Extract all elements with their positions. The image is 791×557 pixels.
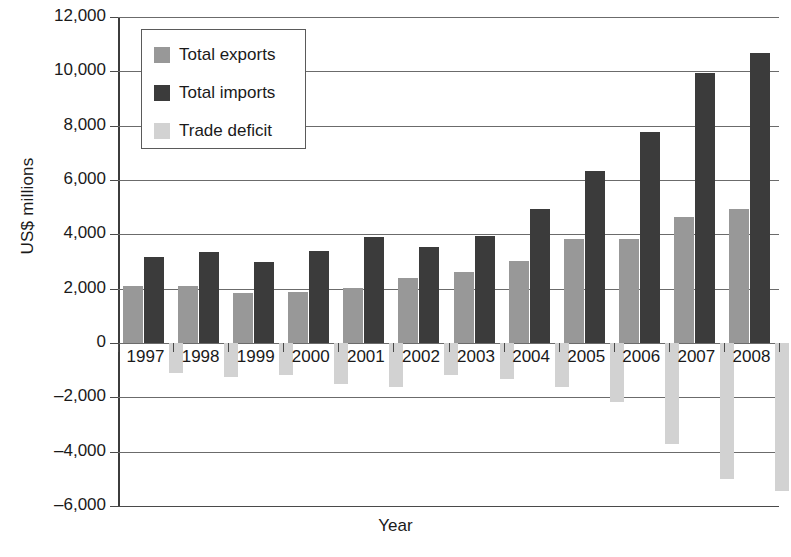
y-axis-tick-label: 8,000: [6, 115, 106, 135]
bar-total-imports: [144, 257, 164, 343]
y-axis-tick-label: 10,000: [6, 60, 106, 80]
legend-item: Trade deficit: [154, 120, 272, 142]
bar-total-imports: [695, 73, 715, 343]
bar-total-imports: [309, 251, 329, 343]
bar-total-imports: [750, 53, 770, 343]
bar-total-exports: [233, 293, 253, 343]
x-axis-tick-label: 2002: [391, 347, 451, 367]
y-axis-tick-label: 6,000: [6, 169, 106, 189]
y-axis-tick-label: 2,000: [6, 278, 106, 298]
gridline: [118, 506, 779, 507]
gridline: [118, 452, 779, 453]
legend-swatch-icon: [154, 47, 170, 63]
y-axis-tick-label: 4,000: [6, 223, 106, 243]
x-axis-tick-label: 2003: [446, 347, 506, 367]
bar-total-imports: [585, 171, 605, 343]
y-axis-tick-label: –6,000: [6, 495, 106, 515]
bar-total-exports: [729, 209, 749, 343]
bar-total-exports: [454, 272, 474, 343]
legend-item: Total exports: [154, 44, 275, 66]
bar-total-imports: [199, 252, 219, 343]
x-axis-tick-label: 1999: [226, 347, 286, 367]
bar-total-exports: [343, 288, 363, 343]
legend-label: Total imports: [179, 83, 275, 103]
x-axis-tick-label: 2007: [666, 347, 726, 367]
y-axis-tick-label: –4,000: [6, 441, 106, 461]
bar-total-imports: [530, 209, 550, 343]
gridline: [118, 180, 779, 181]
x-axis-tick-label: 1998: [171, 347, 231, 367]
bar-total-exports: [619, 239, 639, 343]
legend-label: Total exports: [179, 45, 275, 65]
legend-item: Total imports: [154, 82, 275, 104]
x-axis-tick-label: 2004: [501, 347, 561, 367]
bar-total-exports: [123, 286, 143, 343]
bar-total-imports: [419, 247, 439, 343]
legend-swatch-icon: [154, 123, 170, 139]
bar-total-exports: [674, 217, 694, 343]
x-axis-tick-label: 2000: [281, 347, 341, 367]
bar-total-exports: [564, 239, 584, 343]
bar-total-imports: [640, 132, 660, 343]
bar-total-imports: [254, 262, 274, 344]
bar-total-imports: [475, 236, 495, 343]
bar-chart: US$ millions 12,00010,0008,0006,0004,000…: [0, 0, 791, 557]
x-axis-tick-label: 2001: [336, 347, 396, 367]
bar-total-imports: [364, 237, 384, 343]
legend-label: Trade deficit: [179, 121, 272, 141]
bar-total-exports: [398, 278, 418, 343]
y-axis-tick-label: –2,000: [6, 386, 106, 406]
bar-total-exports: [288, 292, 308, 343]
x-axis-tick-label: 1997: [116, 347, 176, 367]
gridline: [118, 397, 779, 398]
gridline: [118, 17, 779, 18]
y-axis-title: US$ millions: [18, 126, 38, 286]
x-axis-tick-label: 2005: [556, 347, 616, 367]
bar-total-exports: [178, 286, 198, 343]
chart-legend: Total exportsTotal importsTrade deficit: [141, 29, 306, 149]
x-axis-title: Year: [0, 516, 791, 536]
y-axis-tick-label: 0: [6, 332, 106, 352]
y-axis-tick-label: 12,000: [6, 6, 106, 26]
x-axis-tick-label: 2006: [611, 347, 671, 367]
bar-total-exports: [509, 261, 529, 343]
x-axis-tick-label: 2008: [721, 347, 781, 367]
legend-swatch-icon: [154, 85, 170, 101]
